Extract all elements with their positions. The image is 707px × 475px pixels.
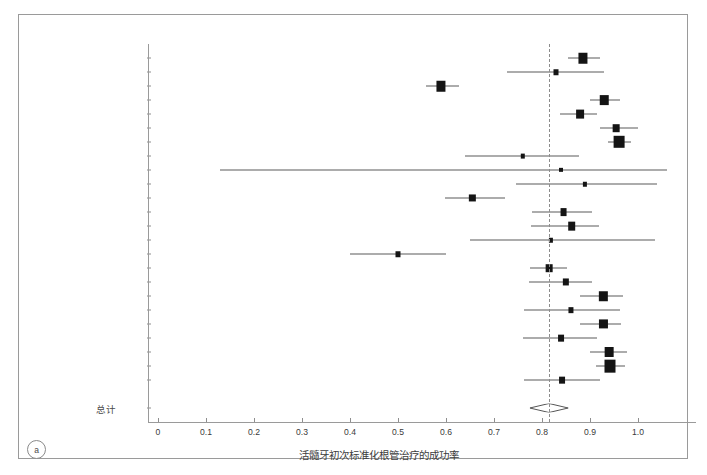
effect-estimate-marker: [396, 251, 401, 257]
effect-estimate-marker: [613, 124, 620, 132]
x-axis-tick-label: 0: [156, 427, 161, 437]
effect-estimate-marker: [559, 377, 565, 384]
x-axis-tick-label: 1.0: [632, 427, 644, 437]
effect-estimate-marker: [578, 53, 587, 64]
effect-estimate-marker: [559, 168, 563, 172]
total-label: 总计: [96, 402, 116, 416]
x-axis-line: [148, 422, 696, 423]
x-axis-tick-label: 0.8: [536, 427, 548, 437]
panel-tag: a: [27, 440, 46, 459]
x-axis-tick-label: 0.6: [440, 427, 452, 437]
x-axis-tick: [206, 418, 207, 422]
effect-estimate-marker: [563, 278, 569, 285]
x-axis-tick-label: 0.1: [200, 427, 212, 437]
effect-estimate-marker: [583, 182, 587, 187]
x-axis-tick: [398, 418, 399, 422]
effect-estimate-marker: [437, 81, 446, 92]
effect-estimate-marker: [599, 319, 607, 328]
x-axis-tick: [158, 418, 159, 422]
x-axis-tick: [542, 418, 543, 422]
confidence-interval-line: [531, 226, 598, 227]
x-axis-tick: [494, 418, 495, 422]
x-axis-tick-label: 0.5: [392, 427, 404, 437]
effect-estimate-marker: [600, 95, 609, 105]
confidence-interval-line: [220, 170, 666, 171]
y-axis-line: [148, 44, 149, 422]
confidence-interval-line: [529, 282, 593, 283]
effect-estimate-marker: [605, 360, 616, 373]
effect-estimate-marker: [554, 69, 559, 75]
x-axis-label: 活髓牙初次标准化根管治疗的成功率: [299, 447, 459, 462]
x-axis-tick: [638, 418, 639, 422]
x-axis-tick: [446, 418, 447, 422]
forest-plot: Adenubi & Rule (1976)Heling & Shapira (1…: [0, 0, 707, 475]
confidence-interval-line: [470, 240, 655, 241]
study-label-column: Adenubi & Rule (1976)Heling & Shapira (1…: [0, 0, 140, 475]
x-axis-tick: [254, 418, 255, 422]
effect-estimate-marker: [605, 347, 614, 357]
effect-estimate-marker: [568, 307, 573, 313]
x-axis-tick: [350, 418, 351, 422]
x-axis-tick-label: 0.9: [584, 427, 596, 437]
x-axis-tick-label: 0.4: [344, 427, 356, 437]
effect-estimate-marker: [558, 335, 564, 342]
x-axis-tick-label: 0.2: [248, 427, 260, 437]
x-axis-tick: [302, 418, 303, 422]
effect-estimate-marker: [560, 208, 567, 216]
x-axis-tick-label: 0.7: [488, 427, 500, 437]
reference-line: [549, 44, 550, 422]
effect-estimate-marker: [469, 194, 475, 201]
effect-estimate-marker: [599, 291, 607, 301]
effect-estimate-marker: [521, 154, 525, 159]
x-axis-tick: [590, 418, 591, 422]
effect-estimate-marker: [568, 222, 576, 231]
x-axis-tick-label: 0.3: [296, 427, 308, 437]
effect-estimate-marker: [576, 110, 584, 119]
effect-estimate-marker: [613, 136, 624, 148]
